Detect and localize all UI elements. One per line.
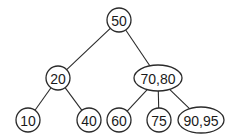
tree-node-50: 50 (107, 8, 131, 32)
tree-node-10: 10 (16, 108, 40, 132)
tree-node-60: 60 (107, 108, 131, 132)
node-label: 10 (20, 113, 36, 129)
edge-20-to-10 (35, 88, 51, 110)
node-label: 75 (151, 113, 167, 129)
edge-20-to-40 (65, 88, 82, 111)
tree-node-40: 40 (77, 108, 101, 132)
node-label: 50 (111, 13, 127, 29)
node-label: 60 (111, 113, 127, 129)
node-label: 70,80 (140, 71, 175, 87)
edge-50-to-70-80 (126, 30, 150, 66)
node-label: 90,95 (183, 113, 218, 129)
node-label: 20 (50, 71, 66, 87)
tree-node-75: 75 (147, 108, 171, 132)
tree-nodes: 502070,801040607590,95 (16, 8, 224, 133)
tree-node-70-80: 70,80 (134, 65, 182, 91)
tree-diagram: 502070,801040607590,95 (0, 0, 239, 140)
edge-50-to-20 (67, 28, 111, 69)
node-label: 40 (81, 113, 97, 129)
tree-node-20: 20 (46, 66, 70, 90)
tree-node-90-95: 90,95 (178, 107, 224, 133)
edge-70-80-to-90-95 (170, 89, 190, 108)
edge-70-80-to-60 (127, 90, 147, 112)
